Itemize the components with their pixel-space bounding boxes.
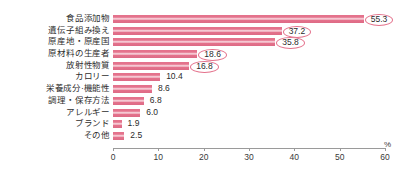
bar (113, 15, 364, 23)
bar (113, 109, 140, 117)
bar-value-label: 1.9 (124, 118, 140, 130)
bar (113, 73, 160, 81)
category-label-wrap: アレルギー (0, 107, 110, 119)
x-tick-label: 40 (290, 152, 299, 162)
bar-area: 16.8 (113, 60, 407, 72)
category-label: 食品添加物 (2, 13, 110, 25)
category-label: 原材料の生産者 (2, 48, 110, 60)
bar-value-label: 8.6 (154, 83, 170, 95)
category-label-wrap: 栄養成分·機能性 (0, 83, 110, 95)
bar-area: 2.5 (113, 130, 407, 142)
x-tick (158, 148, 159, 151)
bar-area: 55.3 (113, 13, 407, 25)
chart-row: 調理・保存方法6.8 (0, 95, 407, 107)
category-label: カロリー (2, 71, 110, 83)
category-label: アレルギー (2, 107, 110, 119)
bar (113, 120, 122, 128)
chart-row: カロリー10.4 (0, 71, 407, 83)
x-tick-label: 10 (154, 152, 163, 162)
category-label: 調理・保存方法 (2, 95, 110, 107)
chart-row: 放射性物質16.8 (0, 60, 407, 72)
chart-row: 原材料の生産者18.6 (0, 48, 407, 60)
bar (113, 132, 124, 140)
horizontal-bar-chart: 食品添加物55.3遺伝子組み換え37.2原産地・原産国35.8原材料の生産者18… (0, 0, 407, 170)
bar-area: 6.8 (113, 95, 407, 107)
category-label: その他 (2, 130, 110, 142)
bar (113, 38, 275, 46)
category-label: 放射性物質 (2, 60, 110, 72)
x-tick (340, 148, 341, 151)
chart-row: 食品添加物55.3 (0, 13, 407, 25)
bar-value-label: 10.4 (162, 71, 183, 83)
chart-row: 原産地・原産国35.8 (0, 36, 407, 48)
x-tick-label: 0 (111, 152, 116, 162)
bar-area: 18.6 (113, 48, 407, 60)
category-label-wrap: 食品添加物 (0, 13, 110, 25)
x-tick-label: 30 (244, 152, 253, 162)
chart-row: 遺伝子組み換え37.2 (0, 25, 407, 37)
bar (113, 62, 189, 70)
bar-value-label: 2.5 (126, 130, 142, 142)
chart-row: アレルギー6.0 (0, 107, 407, 119)
bar-value-label: 6.8 (146, 95, 162, 107)
bar-area: 35.8 (113, 36, 407, 48)
category-label: ブランド (2, 118, 110, 130)
x-axis-unit-label: % (384, 140, 391, 149)
category-label-wrap: その他 (0, 130, 110, 142)
bar-value-label: 6.0 (142, 107, 158, 119)
x-tick (113, 148, 114, 151)
category-label-wrap: 原産地・原産国 (0, 36, 110, 48)
category-label: 遺伝子組み換え (2, 25, 110, 37)
chart-row: その他2.5 (0, 130, 407, 142)
category-label-wrap: ブランド (0, 118, 110, 130)
bar (113, 85, 152, 93)
x-tick-label: 50 (335, 152, 344, 162)
category-label: 原産地・原産国 (2, 36, 110, 48)
bar (113, 27, 282, 35)
category-label: 栄養成分·機能性 (2, 83, 110, 95)
category-label-wrap: 原材料の生産者 (0, 48, 110, 60)
category-label-wrap: カロリー (0, 71, 110, 83)
bar-area: 1.9 (113, 118, 407, 130)
bar-area: 6.0 (113, 107, 407, 119)
x-tick-label: 20 (199, 152, 208, 162)
chart-rows: 食品添加物55.3遺伝子組み換え37.2原産地・原産国35.8原材料の生産者18… (0, 13, 407, 142)
chart-row: 栄養成分·機能性8.6 (0, 83, 407, 95)
category-label-wrap: 遺伝子組み換え (0, 25, 110, 37)
bar-area: 8.6 (113, 83, 407, 95)
bar-area: 37.2 (113, 25, 407, 37)
bar (113, 50, 197, 58)
x-tick (249, 148, 250, 151)
chart-title-clipped (62, 0, 362, 2)
x-tick (204, 148, 205, 151)
chart-row: ブランド1.9 (0, 118, 407, 130)
bar (113, 97, 144, 105)
category-label-wrap: 放射性物質 (0, 60, 110, 72)
bar-area: 10.4 (113, 71, 407, 83)
x-tick (294, 148, 295, 151)
category-label-wrap: 調理・保存方法 (0, 95, 110, 107)
x-tick-label: 60 (380, 152, 389, 162)
